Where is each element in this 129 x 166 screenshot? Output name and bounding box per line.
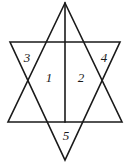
region-label-3: 3 xyxy=(24,51,31,64)
region-label-1: 1 xyxy=(46,71,53,84)
region-label-2: 2 xyxy=(78,71,85,84)
region-label-5: 5 xyxy=(63,129,70,142)
hexagram-figure: 1 2 3 4 5 xyxy=(0,0,129,166)
region-label-4: 4 xyxy=(101,51,108,64)
